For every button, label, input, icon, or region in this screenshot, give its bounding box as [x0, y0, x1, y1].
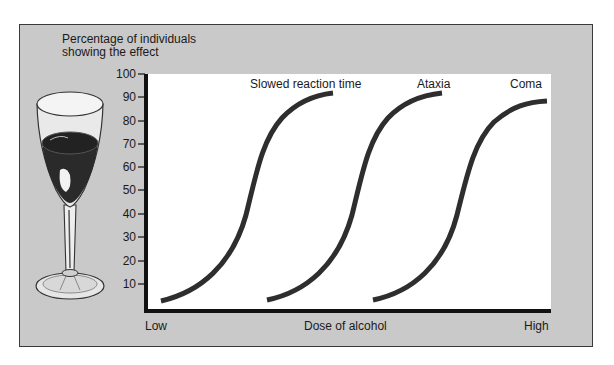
y-tick-100: 100 — [116, 67, 136, 81]
x-label-low: Low — [145, 319, 167, 333]
chart-canvas: 100 90 80 70 60 50 40 30 20 10 Slowed re… — [0, 0, 614, 365]
x-axis-title: Dose of alcohol — [304, 319, 387, 333]
y-tick-20: 20 — [123, 254, 137, 268]
label-ataxia: Ataxia — [417, 77, 451, 91]
y-tick-40: 40 — [123, 207, 137, 221]
y-tick-50: 50 — [123, 183, 137, 197]
y-ticks — [138, 74, 145, 284]
plot-area — [147, 74, 551, 310]
y-tick-30: 30 — [123, 230, 137, 244]
y-tick-60: 60 — [123, 160, 137, 174]
y-tick-80: 80 — [123, 114, 137, 128]
x-label-high: High — [524, 319, 549, 333]
label-coma: Coma — [510, 77, 542, 91]
x-axis — [144, 309, 551, 313]
label-slowed-reaction-time: Slowed reaction time — [250, 77, 362, 91]
y-axis — [144, 74, 148, 313]
y-tick-10: 10 — [123, 277, 137, 291]
y-tick-70: 70 — [123, 137, 137, 151]
y-tick-labels: 100 90 80 70 60 50 40 30 20 10 — [116, 67, 136, 291]
y-tick-90: 90 — [123, 90, 137, 104]
wine-glass-icon — [36, 92, 104, 299]
